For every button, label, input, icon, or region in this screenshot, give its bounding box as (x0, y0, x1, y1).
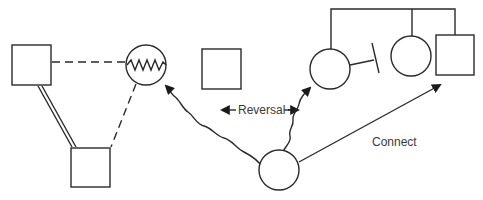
male-node-isolated (202, 49, 241, 89)
connect-arrow (299, 85, 440, 162)
right-family (310, 9, 474, 89)
male-node-bottom (71, 148, 110, 187)
double-edge-b (42, 86, 76, 147)
wavy-arrow-reversal-right (283, 88, 310, 152)
male-node-sibling-right (436, 35, 474, 75)
female-node-sibling-left (310, 49, 350, 89)
reversal-label-group: Reversal (222, 103, 298, 117)
dashed-edge-diagonal (111, 84, 136, 147)
female-node-center (259, 150, 299, 190)
left-triangle (12, 45, 166, 187)
connect-label: Connect (372, 135, 417, 149)
family-diagram: Reversal Connect (0, 0, 483, 200)
cutoff-line (350, 60, 374, 65)
double-edge-a (38, 86, 72, 147)
female-node-sibling-middle (391, 36, 431, 76)
male-node-top-left (12, 45, 51, 85)
female-node-conflict (126, 45, 166, 85)
reversal-label: Reversal (238, 103, 285, 117)
cutoff-bar-icon (372, 43, 379, 73)
wavy-arrow-reversal-left (166, 86, 263, 168)
